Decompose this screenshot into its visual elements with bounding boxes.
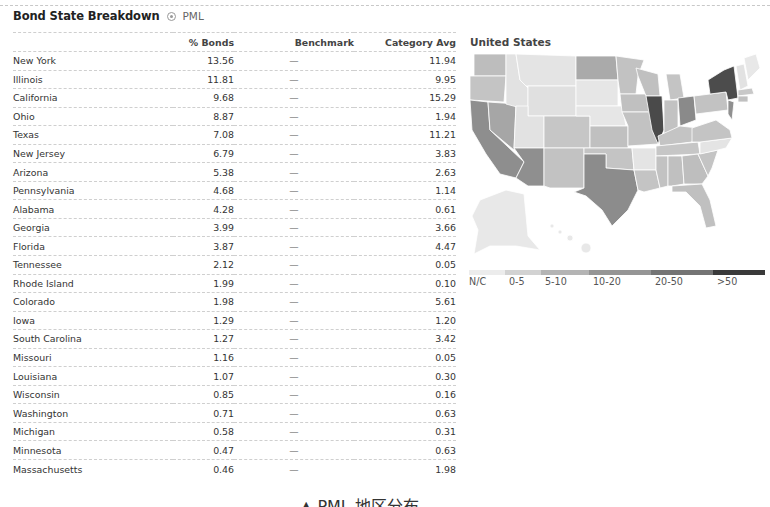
state-name: Ohio [13, 107, 173, 126]
state-florida [672, 184, 716, 228]
state-name: New York [13, 52, 173, 71]
state-name: Arizona [13, 163, 173, 182]
percent-bonds-value: 1.07 [173, 367, 234, 386]
percent-bonds-value: 3.99 [173, 218, 234, 237]
legend-swatch-10-20 [589, 270, 651, 275]
table-row: Minnesota0.47—0.63 [13, 441, 456, 460]
benchmark-value: — [234, 422, 354, 441]
section-title: Bond State Breakdown [13, 9, 160, 23]
benchmark-value: — [234, 200, 354, 219]
benchmark-value: — [234, 89, 354, 108]
percent-bonds-value: 0.47 [173, 441, 234, 460]
percent-bonds-value: 9.68 [173, 89, 234, 108]
state-rhode-island-ct [738, 96, 748, 102]
column-header-category-avg: Category Avg [354, 33, 456, 52]
percent-bonds-value: 4.68 [173, 181, 234, 200]
state-new-jersey [728, 100, 734, 120]
benchmark-value: — [234, 218, 354, 237]
table-row: South Carolina1.27—3.42 [13, 330, 456, 349]
percent-bonds-value: 1.98 [173, 293, 234, 312]
table-row: Rhode Island1.99—0.10 [13, 274, 456, 293]
benchmark-value: — [234, 181, 354, 200]
category-avg-value: 0.63 [354, 404, 456, 423]
state-name: Rhode Island [13, 274, 173, 293]
category-avg-value: 0.10 [354, 274, 456, 293]
state-arkansas [632, 148, 656, 170]
column-header-bonds: % Bonds [173, 33, 234, 52]
benchmark-value: — [234, 52, 354, 71]
table-row: Arizona5.38—2.63 [13, 163, 456, 182]
legend-label-20-50: 20-50 [655, 276, 683, 287]
table-row: Iowa1.29—1.20 [13, 311, 456, 330]
percent-bonds-value: 5.38 [173, 163, 234, 182]
percent-bonds-value: 7.08 [173, 126, 234, 145]
state-new-mexico [544, 148, 584, 188]
benchmark-value: — [234, 126, 354, 145]
state-south-dakota [576, 80, 618, 106]
percent-bonds-value: 11.81 [173, 70, 234, 89]
help-icon[interactable] [167, 12, 176, 21]
benchmark-value: — [234, 107, 354, 126]
table-row: Tennessee2.12—0.05 [13, 256, 456, 275]
us-map-panel: United States [466, 32, 764, 292]
category-avg-value: 3.66 [354, 218, 456, 237]
table-row: Washington0.71—0.63 [13, 404, 456, 423]
bond-state-table: % Bonds Benchmark Category Avg New York1… [13, 32, 456, 478]
state-oregon [470, 76, 506, 102]
percent-bonds-value: 2.12 [173, 256, 234, 275]
benchmark-value: — [234, 293, 354, 312]
state-alaska [472, 190, 540, 254]
category-avg-value: 0.05 [354, 256, 456, 275]
table-row: New Jersey6.79—3.83 [13, 144, 456, 163]
state-colorado [544, 116, 590, 148]
table-row: Illinois11.81—9.95 [13, 70, 456, 89]
state-name: Georgia [13, 218, 173, 237]
benchmark-value: — [234, 237, 354, 256]
state-name: Illinois [13, 70, 173, 89]
state-louisiana [634, 170, 660, 192]
table-row: Massachusetts0.46—1.98 [13, 460, 456, 479]
table-row: Missouri1.16—0.05 [13, 348, 456, 367]
category-avg-value: 9.95 [354, 70, 456, 89]
percent-bonds-value: 1.29 [173, 311, 234, 330]
benchmark-value: — [234, 163, 354, 182]
category-avg-value: 2.63 [354, 163, 456, 182]
table-row: Colorado1.98—5.61 [13, 293, 456, 312]
state-name: Alabama [13, 200, 173, 219]
benchmark-value: — [234, 70, 354, 89]
figure-caption: ▲ PML 地区分布 [300, 493, 419, 507]
top-divider [0, 5, 770, 6]
table-row: Ohio8.87—1.94 [13, 107, 456, 126]
benchmark-value: — [234, 441, 354, 460]
state-name: Michigan [13, 422, 173, 441]
category-avg-value: 1.94 [354, 107, 456, 126]
map-title: United States [470, 36, 551, 48]
percent-bonds-value: 8.87 [173, 107, 234, 126]
legend-swatch-nc [469, 270, 505, 275]
state-name: California [13, 89, 173, 108]
us-choropleth-map [466, 50, 764, 265]
category-avg-value: 0.30 [354, 367, 456, 386]
legend-swatch-5-10 [541, 270, 589, 275]
category-avg-value: 0.05 [354, 348, 456, 367]
table-header-row: % Bonds Benchmark Category Avg [13, 33, 456, 52]
percent-bonds-value: 1.16 [173, 348, 234, 367]
table-row: Georgia3.99—3.66 [13, 218, 456, 237]
state-ohio [678, 96, 696, 126]
benchmark-value: — [234, 144, 354, 163]
category-avg-value: 1.20 [354, 311, 456, 330]
state-name: Missouri [13, 348, 173, 367]
table-row: Wisconsin0.85—0.16 [13, 385, 456, 404]
table-row: California9.68—15.29 [13, 89, 456, 108]
table-row: Texas7.08—11.21 [13, 126, 456, 145]
benchmark-value: — [234, 348, 354, 367]
legend-swatch-0-5 [505, 270, 541, 275]
percent-bonds-value: 0.71 [173, 404, 234, 423]
column-header-benchmark: Benchmark [234, 33, 354, 52]
state-washington [474, 54, 506, 76]
category-avg-value: 11.94 [354, 52, 456, 71]
column-header-state [13, 33, 173, 52]
benchmark-value: — [234, 330, 354, 349]
category-avg-value: 0.16 [354, 385, 456, 404]
state-name: Texas [13, 126, 173, 145]
